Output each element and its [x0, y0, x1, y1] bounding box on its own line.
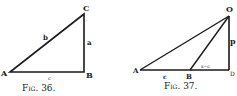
vertex-label-b: B	[86, 70, 93, 80]
side-label-b: b	[43, 33, 48, 42]
vertex-label-b: B	[186, 72, 192, 81]
side-label-a: a	[87, 38, 92, 47]
vertex-label-c: C	[83, 3, 89, 13]
diagram-canvas: A B C b a c Fig. 36. A B O c x−c p D Fig…	[0, 0, 237, 96]
side-label-x-minus-c: x−c	[201, 64, 210, 69]
side-label-c: c	[163, 73, 167, 80]
caption-fig-36: Fig. 36.	[22, 83, 56, 93]
side-ao	[140, 16, 229, 70]
figure-37: A B O c x−c p D Fig. 37.	[132, 4, 236, 91]
side-label-p: p	[230, 36, 236, 46]
triangle-abc	[10, 14, 84, 72]
side-label-c: c	[48, 75, 51, 81]
side-bo	[190, 16, 229, 70]
figure-36: A B C b a c Fig. 36.	[0, 3, 93, 93]
vertex-label-d: D	[230, 70, 235, 77]
vertex-label-o: O	[226, 4, 233, 14]
caption-fig-37: Fig. 37.	[164, 81, 198, 91]
vertex-label-a: A	[0, 68, 8, 78]
vertex-label-a: A	[132, 66, 139, 75]
